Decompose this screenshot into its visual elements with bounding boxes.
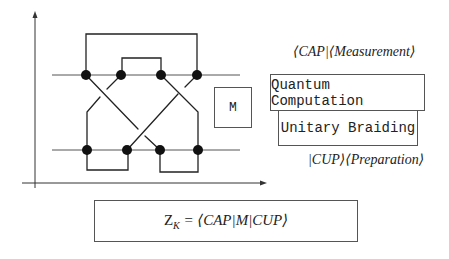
partition-function-formula: ZK = ⟨CAP|M|CUP⟩ [164, 211, 288, 231]
right-cup [160, 150, 198, 172]
lower-node-3 [155, 145, 165, 155]
unitary-braiding-label: Unitary Braiding [281, 120, 415, 136]
cup-preparation-label: |CUP⟩⟨Preparation⟩ [308, 151, 424, 168]
m-operator-box: M [214, 87, 252, 128]
upper-node-3 [156, 70, 166, 80]
lower-node-4 [193, 145, 203, 155]
formula-subscript-k: K [173, 220, 180, 231]
quantum-computation-label: Quantum Computation [271, 77, 424, 109]
knot-strands [86, 34, 198, 172]
strand-d-lower [127, 94, 178, 150]
partition-function-box: ZK = ⟨CAP|M|CUP⟩ [94, 200, 358, 242]
strand-b-lower [87, 97, 100, 150]
lower-node-2 [122, 145, 132, 155]
cap-measurement-label: ⟨CAP|⟨Measurement⟩ [293, 43, 415, 60]
upper-node-2 [116, 70, 126, 80]
formula-rhs: = ⟨CAP|M|CUP⟩ [180, 212, 288, 228]
quantum-computation-box: Quantum Computation [270, 74, 425, 111]
upper-node-4 [192, 70, 202, 80]
m-operator-label: M [229, 100, 237, 115]
knot-nodes [81, 70, 203, 155]
strand-c [161, 75, 198, 150]
outer-cap [86, 34, 197, 75]
formula-z: Z [164, 212, 173, 228]
lower-node-1 [82, 145, 92, 155]
upper-node-1 [81, 70, 91, 80]
vertical-axis-arrow-icon [33, 11, 38, 18]
inner-cap [122, 58, 161, 75]
guide-lines [52, 75, 240, 150]
horizontal-axis-arrow-icon [260, 181, 267, 186]
unitary-braiding-box: Unitary Braiding [278, 110, 418, 146]
left-cup [87, 150, 128, 170]
